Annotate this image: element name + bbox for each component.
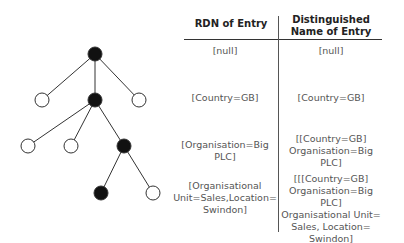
header-divider [184, 39, 382, 40]
filled-node-l1-mid [88, 93, 102, 107]
dn-cell-row-2: [Country=GB] [280, 92, 382, 104]
cell-line: [Organisation=Big PLC] [172, 139, 278, 163]
column-divider [278, 16, 279, 232]
dn-cell-row-1: [null] [280, 45, 382, 57]
tree-edge [95, 100, 124, 146]
header-dn-line2: Name of Entry [280, 26, 382, 38]
filled-node-root [88, 47, 102, 61]
cell-line: [[[Country=GB] [280, 173, 382, 185]
cell-line: Organisation=Big PLC] [280, 185, 382, 209]
header-rdn: RDN of Entry [184, 18, 278, 30]
tree-edge [71, 100, 95, 146]
dn-cell-row-4: [[[Country=GB]Organisation=Big PLC]Organ… [280, 173, 382, 243]
rdn-cell-row-2: [Country=GB] [172, 92, 278, 104]
cell-line: [null] [280, 45, 382, 57]
empty-node-l1-right [132, 93, 146, 107]
rdn-cell-row-4: [OrganisationalUnit=Sales,Location=Swind… [172, 180, 278, 216]
directory-tree [0, 0, 180, 243]
cell-line: Unit=Sales,Location= [172, 192, 278, 204]
tree-edge [42, 54, 95, 100]
empty-node-l2-left [21, 139, 35, 153]
empty-node-l1-left [35, 93, 49, 107]
cell-line: Organisation=Big PLC] [280, 145, 382, 169]
cell-line: [null] [172, 45, 278, 57]
cell-line: Sales, Location= [280, 221, 382, 233]
tree-edge [101, 146, 124, 193]
empty-node-l3-right [146, 186, 160, 200]
header-dn-line1: Distinguished [280, 14, 382, 26]
cell-line: [Country=GB] [172, 92, 278, 104]
tree-edge [124, 146, 153, 193]
dn-cell-row-3: [[Country=GB]Organisation=Big PLC] [280, 133, 382, 169]
cell-line: Organisational Unit= [280, 209, 382, 221]
cell-line: Swindon] [172, 204, 278, 216]
cell-line: [Country=GB] [280, 92, 382, 104]
tree-edge [28, 100, 95, 146]
rdn-cell-row-1: [null] [172, 45, 278, 57]
filled-node-l3-left [94, 186, 108, 200]
empty-node-l2-mid [64, 139, 78, 153]
header-dn: Distinguished Name of Entry [280, 14, 382, 38]
tree-edge [95, 54, 139, 100]
rdn-cell-row-3: [Organisation=Big PLC] [172, 139, 278, 163]
cell-line: [[Country=GB] [280, 133, 382, 145]
cell-line: [Organisational [172, 180, 278, 192]
cell-line: Swindon] [280, 233, 382, 243]
filled-node-l2-right [117, 139, 131, 153]
